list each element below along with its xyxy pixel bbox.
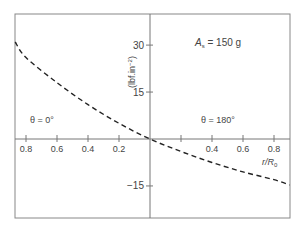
- y-axis-label: (lbf.in−2): [127, 56, 137, 88]
- region-label-left: θ = 0°: [30, 115, 54, 125]
- region-label-right: θ = 180°: [201, 115, 235, 125]
- chart: 0.80.60.40.20.40.60.8 3015−15 (lbf.in−2)…: [0, 0, 304, 231]
- chart-svg: 0.80.60.40.20.40.60.8 3015−15 (lbf.in−2)…: [0, 0, 304, 231]
- annotation-label: As = 150 g: [194, 37, 241, 49]
- x-tick-label: 0.2: [113, 144, 126, 154]
- data-curve: [15, 42, 289, 185]
- x-tick-label: 0.6: [237, 144, 250, 154]
- x-tick-label: 0.4: [206, 144, 219, 154]
- x-tick-label: 0.6: [51, 144, 64, 154]
- y-tick-label: −15: [127, 180, 144, 191]
- x-axis-label: r/R0: [262, 157, 278, 168]
- y-tick-label: 30: [133, 40, 145, 51]
- x-tick-label: 0.4: [82, 144, 95, 154]
- x-tick-label: 0.8: [268, 144, 281, 154]
- x-tick-label: 0.8: [20, 144, 33, 154]
